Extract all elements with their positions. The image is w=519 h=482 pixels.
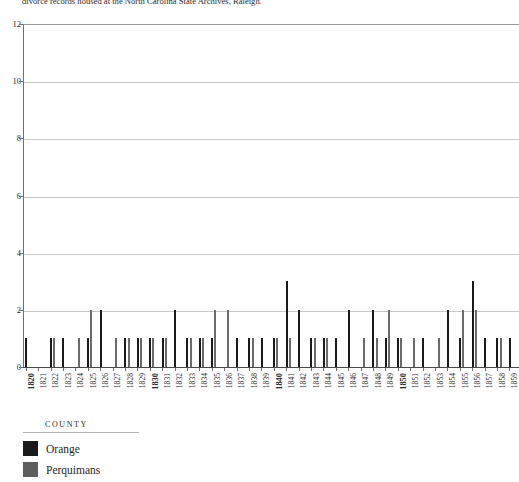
bar [140, 338, 142, 367]
x-axis-tick-mark [311, 368, 312, 371]
bar [276, 338, 278, 367]
x-axis-tick-label: 1845 [337, 373, 346, 388]
bar [348, 310, 350, 367]
x-axis-tick-label: 1828 [126, 373, 135, 388]
x-axis-tick-mark [286, 368, 287, 371]
x-axis-tick-label: 1824 [76, 373, 85, 388]
x-axis-tick-mark [150, 368, 151, 371]
x-axis-tick-mark [361, 368, 362, 371]
x-axis-tick-label: 1837 [237, 373, 246, 388]
x-axis-tick-mark [485, 368, 486, 371]
legend-items: OrangePerquimans [23, 438, 223, 480]
bar [252, 338, 254, 367]
x-axis-tick-label: 1820 [27, 373, 36, 390]
x-axis-tick-mark [137, 368, 138, 371]
bar [376, 338, 378, 367]
x-axis-tick-label: 1844 [324, 373, 333, 388]
bar [152, 338, 154, 367]
x-axis-tick-mark [323, 368, 324, 371]
x-axis-tick-label: 1850 [399, 373, 408, 390]
bar [372, 310, 374, 367]
bar [87, 338, 89, 367]
bar [326, 338, 328, 367]
bar [400, 338, 402, 367]
x-axis-tick-label: 1822 [51, 373, 60, 388]
bar [298, 310, 300, 367]
x-axis-tick-label: 1833 [188, 373, 197, 388]
x-axis-tick-label: 1831 [163, 373, 172, 388]
bar [314, 338, 316, 367]
x-axis-tick-mark [447, 368, 448, 371]
x-axis-tick-mark [75, 368, 76, 371]
x-axis-tick-label: 1842 [299, 373, 308, 388]
bar [447, 310, 449, 367]
bar [128, 338, 130, 367]
bar [310, 338, 312, 367]
x-axis-tick-label: 1848 [374, 373, 383, 388]
legend-swatch [23, 441, 38, 456]
x-axis-tick-mark [187, 368, 188, 371]
x-axis-tick-mark [237, 368, 238, 371]
bar [286, 281, 288, 367]
x-axis-tick-label: 1858 [498, 373, 507, 388]
bar [90, 310, 92, 367]
x-axis-tick-label: 1846 [349, 373, 358, 388]
legend-item[interactable]: Orange [23, 438, 223, 459]
bar [273, 338, 275, 367]
x-axis-tick-mark [26, 368, 27, 371]
x-axis-tick-label: 1836 [225, 373, 234, 388]
x-axis-tick-mark [460, 368, 461, 371]
x-axis-tick-mark [113, 368, 114, 371]
x-axis-tick-mark [299, 368, 300, 371]
x-axis-tick-label: 1847 [361, 373, 370, 388]
bar [438, 338, 440, 367]
bar [78, 338, 80, 367]
x-axis-tick-label: 1853 [436, 373, 445, 388]
x-axis-tick-mark [509, 368, 510, 371]
x-axis-tick-label: 1859 [510, 373, 519, 388]
x-axis-tick-label: 1830 [151, 373, 160, 390]
x-axis-tick-label: 1854 [448, 373, 457, 388]
x-axis-tick-mark [385, 368, 386, 371]
bar [53, 338, 55, 367]
bar [248, 338, 250, 367]
x-axis-tick-mark [51, 368, 52, 371]
bar [202, 338, 204, 367]
bar [335, 338, 337, 367]
x-axis-tick-mark [435, 368, 436, 371]
x-axis-tick-label: 1825 [89, 373, 98, 388]
bar [115, 338, 117, 367]
x-axis-tick-label: 1839 [262, 373, 271, 388]
x-axis-tick-label: 1849 [386, 373, 395, 388]
x-axis-tick-label: 1843 [312, 373, 321, 388]
bar [162, 338, 164, 367]
bar [214, 310, 216, 367]
x-axis-tick-mark [88, 368, 89, 371]
legend-divider [23, 432, 139, 433]
bar [462, 310, 464, 367]
bar [50, 338, 52, 367]
bar [211, 338, 213, 367]
x-axis-tick-label: 1827 [113, 373, 122, 388]
x-axis-tick-mark [423, 368, 424, 371]
bar [236, 338, 238, 367]
x-axis-tick-label: 1852 [423, 373, 432, 388]
x-axis-tick-mark [63, 368, 64, 371]
bar-chart-figure: 024681012 182018211822182318241825182618… [0, 0, 519, 482]
x-axis-tick-mark [162, 368, 163, 371]
legend-item[interactable]: Perquimans [23, 459, 223, 480]
x-axis-tick-mark [274, 368, 275, 371]
bar [509, 338, 511, 367]
bar [500, 338, 502, 367]
x-axis-tick-label: 1826 [101, 373, 110, 388]
bar [289, 338, 291, 367]
y-axis: 024681012 [0, 0, 21, 482]
bar [199, 338, 201, 367]
bar [323, 338, 325, 367]
x-axis-tick-label: 1835 [213, 373, 222, 388]
x-axis-tick-label: 1823 [64, 373, 73, 388]
x-axis-tick-mark [261, 368, 262, 371]
x-axis-tick-label: 1838 [250, 373, 259, 388]
bar [124, 338, 126, 367]
bar [62, 338, 64, 367]
